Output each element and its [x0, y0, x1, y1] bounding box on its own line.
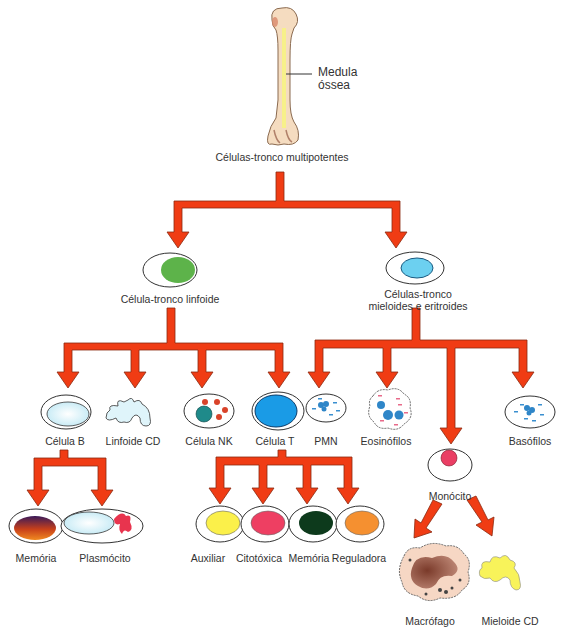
pmn-icon	[306, 394, 346, 422]
nk-cell-label: Célula NK	[185, 435, 232, 447]
memory-t-cell-icon	[289, 506, 337, 542]
pmn-label: PMN	[314, 435, 337, 447]
plasma-cell-icon	[61, 509, 143, 543]
basophil-icon	[505, 396, 555, 428]
macrophage-label: Macrófago	[405, 615, 455, 627]
eosinophil-icon	[369, 389, 411, 430]
multipotent-stem-cells-label: Células-tronco multipotentes	[215, 151, 348, 163]
myeloid-dendritic-cell-label: Mieloide CD	[481, 615, 538, 627]
b-cell-label: Célula B	[45, 435, 85, 447]
cytotoxic-t-cell-label: Citotóxica	[236, 552, 282, 564]
monocyte-icon	[428, 449, 472, 481]
nk-cell-icon	[184, 394, 234, 428]
b-cell-icon	[41, 395, 91, 429]
hematopoiesis-diagram	[0, 0, 564, 630]
helper-t-cell-icon	[196, 506, 244, 542]
lymphoid-stem-cell-label: Célula-tronco linfoide	[121, 293, 220, 305]
regulatory-t-cell-icon	[336, 506, 384, 542]
myeloid-stem-cell-icon	[386, 252, 444, 284]
arrow-connectors	[27, 172, 534, 538]
cytotoxic-t-cell-icon	[241, 506, 289, 542]
bone-marrow-label-line2: óssea	[318, 79, 350, 92]
monocyte-label: Monócito	[429, 490, 472, 502]
helper-t-cell-label: Auxiliar	[191, 552, 225, 564]
myeloid-stem-cell-label-line2: mieloides e eritroides	[368, 300, 467, 312]
myeloid-dendritic-cell-icon	[479, 555, 520, 590]
memory-b-cell-icon	[9, 509, 63, 543]
lymphoid-stem-cell-icon	[143, 253, 197, 287]
basophil-label: Basófilos	[509, 435, 552, 447]
macrophage-icon	[399, 543, 469, 600]
memory-b-cell-label: Memória	[16, 552, 57, 564]
t-cell-label: Célula T	[256, 435, 295, 447]
lymphoid-dendritic-cell-label: Linfoide CD	[106, 435, 161, 447]
memory-t-cell-label: Memória	[289, 552, 330, 564]
myeloid-stem-cell-label-line1: Células-tronco	[384, 288, 452, 300]
regulatory-t-cell-label: Reguladora	[332, 552, 386, 564]
eosinophil-label: Eosinófilos	[361, 435, 412, 447]
t-cell-icon	[252, 392, 304, 430]
bone-icon	[268, 8, 313, 145]
lymphoid-dendritic-cell-icon	[106, 398, 151, 426]
plasma-cell-label: Plasmócito	[79, 552, 130, 564]
